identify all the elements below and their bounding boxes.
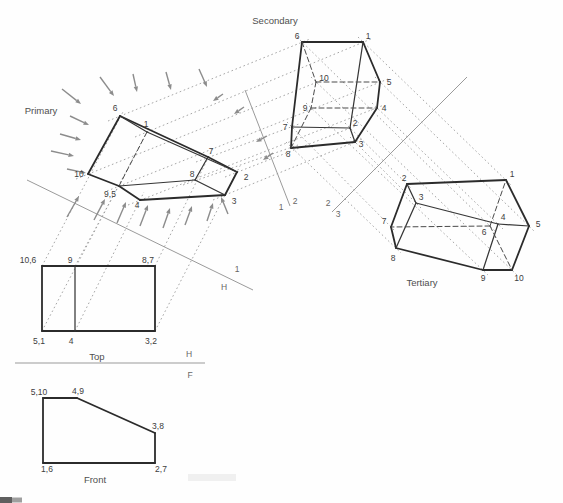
- primary-view: 61728109,543Primary: [25, 103, 249, 210]
- scan-artifact-2: [188, 474, 236, 481]
- descriptive-geometry-diagram: 1HHF1223 61728109,543Primary61105947238S…: [0, 0, 563, 503]
- tertiary-edge-3-8: [396, 203, 416, 248]
- secondary-edge-8-7: [291, 127, 292, 148]
- projection-line-primary_to_secondary-0: [108, 39, 310, 121]
- fold-line-2-3: [332, 77, 467, 212]
- projection-line-top_to_primary-2: [155, 150, 212, 266]
- secondary-edge-7-6: [292, 42, 302, 127]
- secondary-edge-3-8: [291, 142, 355, 148]
- fold-line-label-H-1-H: H: [221, 282, 227, 292]
- view-direction-arrow-head-2: [167, 84, 171, 90]
- view-direction-arrow-head-13: [166, 208, 170, 214]
- view-direction-arrow-shaft-9: [67, 201, 76, 217]
- primary-edge-4-9,5: [119, 186, 140, 200]
- primary-point-label-2: 2: [244, 172, 249, 182]
- top-point-label-8,7: 8,7: [142, 255, 154, 265]
- projection-line-top_to_primary-4: [75, 192, 144, 331]
- tertiary-edge-6-10: [490, 226, 512, 270]
- view-direction-arrows-layer: [51, 69, 273, 228]
- view-direction-arrow-shaft-7: [51, 151, 69, 155]
- secondary-point-label-2: 2: [353, 118, 358, 128]
- secondary-edge-7-2: [292, 127, 350, 128]
- fold-line-H-1: [27, 180, 253, 290]
- fold-line-label-2-3-3: 3: [336, 209, 341, 219]
- top-point-label-3,2: 3,2: [145, 336, 157, 346]
- front-point-label-3,8: 3,8: [152, 421, 164, 431]
- secondary-view: 61105947238Secondary: [252, 15, 391, 159]
- view-direction-arrow-shaft-14: [185, 211, 190, 225]
- view-direction-arrow-shaft-16: [223, 202, 228, 214]
- view-direction-arrow-head-16: [221, 197, 225, 203]
- tertiary-point-label-10: 10: [514, 273, 524, 283]
- secondary-point-label-9: 9: [303, 103, 308, 113]
- front-edge-4,9-3,8: [77, 398, 155, 433]
- view-direction-arrow-head-6: [75, 136, 81, 140]
- top-point-label-9: 9: [68, 255, 73, 265]
- front-point-label-1,6: 1,6: [41, 464, 53, 474]
- scan-artifact-1: [12, 498, 22, 503]
- projection-line-top_to_primary-0: [42, 110, 124, 266]
- tertiary-edge-9-8: [396, 248, 483, 270]
- tertiary-edge-2-3: [407, 184, 416, 203]
- view-direction-arrow-shaft-10: [94, 204, 102, 220]
- primary-point-label-4: 4: [135, 200, 140, 210]
- view-direction-arrow-head-11: [122, 202, 126, 208]
- tertiary-point-label-3: 3: [419, 192, 424, 202]
- top-point-label-10,6: 10,6: [20, 255, 37, 265]
- primary-point-label-10: 10: [74, 169, 84, 179]
- front-point-label-2,7: 2,7: [155, 464, 167, 474]
- scan-artifact-0: [0, 497, 12, 503]
- tertiary-point-label-2: 2: [402, 173, 407, 183]
- top-point-label-5,1: 5,1: [33, 336, 45, 346]
- view-direction-arrow-head-12: [144, 205, 148, 211]
- tertiary-point-label-6: 6: [482, 227, 487, 237]
- fold-line-label-1-2-2: 2: [293, 196, 298, 206]
- view-direction-arrow-shaft-6: [60, 134, 76, 138]
- tertiary-view: 12374568910Tertiary: [382, 169, 541, 288]
- view-direction-arrow-head-7: [68, 153, 74, 157]
- fold-line-label-H-1-1: 1: [235, 264, 240, 274]
- tertiary-view-title: Tertiary: [406, 277, 437, 288]
- view-direction-arrow-shaft-4: [62, 89, 77, 101]
- secondary-point-label-5: 5: [387, 77, 392, 87]
- drawing-sheet: 1HHF1223 61728109,543Primary61105947238S…: [0, 0, 563, 503]
- primary-edge-9,5-10: [88, 174, 119, 186]
- view-direction-arrow-head-3: [203, 81, 207, 87]
- view-direction-arrow-shaft-17: [218, 94, 223, 98]
- top-point-label-4: 4: [69, 336, 74, 346]
- fold-line-label-1-2-1: 1: [279, 202, 284, 212]
- primary-point-label-6: 6: [113, 103, 118, 113]
- projection-line-secondary_to_tertiary-3: [372, 103, 503, 229]
- secondary-point-label-4: 4: [382, 103, 387, 113]
- view-direction-arrow-shaft-5: [70, 116, 84, 123]
- view-direction-arrow-shaft-1: [133, 74, 136, 87]
- tertiary-edge-3-4: [416, 203, 498, 224]
- primary-edge-2-3: [225, 172, 237, 195]
- tertiary-point-label-1: 1: [510, 169, 515, 179]
- view-direction-arrow-shaft-18: [239, 107, 244, 111]
- tertiary-edge-7-2: [391, 184, 407, 227]
- secondary-point-label-6: 6: [295, 31, 300, 41]
- scan-artifacts-layer: [0, 474, 236, 503]
- tertiary-point-label-4: 4: [501, 212, 506, 222]
- projection-line-secondary_to_tertiary-9: [311, 77, 517, 275]
- view-direction-arrow-head-5: [83, 121, 89, 125]
- secondary-edge-2-3: [350, 128, 355, 142]
- top-view: 10,698,75,143,2Top: [20, 255, 157, 362]
- secondary-view-title: Secondary: [252, 15, 298, 26]
- primary-edge-6-7: [120, 116, 208, 157]
- primary-edge-8-3: [195, 180, 225, 195]
- secondary-point-label-10: 10: [319, 73, 329, 83]
- views-layer: 61728109,543Primary61105947238Secondary1…: [20, 15, 541, 485]
- secondary-edge-5-4: [377, 82, 380, 108]
- fold-line-label-H-F-H: H: [186, 349, 192, 359]
- secondary-point-label-3: 3: [359, 139, 364, 149]
- tertiary-edge-5-10: [512, 226, 529, 270]
- view-direction-arrow-shaft-0: [100, 77, 111, 92]
- view-direction-arrow-head-1: [134, 86, 138, 92]
- secondary-edge-1-2: [350, 42, 363, 128]
- view-direction-arrow-head-15: [209, 203, 213, 209]
- front-view-title: Front: [84, 474, 107, 485]
- projection-line-primary_to_secondary-6: [183, 145, 298, 185]
- secondary-point-label-7: 7: [283, 122, 288, 132]
